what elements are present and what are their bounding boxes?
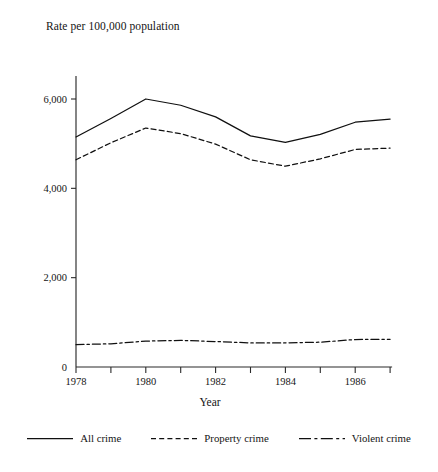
y-tick-label: 2,000 <box>43 272 67 283</box>
y-tick-label: 6,000 <box>43 94 67 105</box>
legend-label: All crime <box>80 432 121 444</box>
chart-legend: All crimeProperty crimeViolent crime <box>0 432 438 444</box>
x-tick-label: 1984 <box>275 376 297 387</box>
axes <box>76 76 392 367</box>
series-line-violent-crime <box>76 339 390 344</box>
legend-item-all-crime: All crime <box>27 432 121 444</box>
y-axis-tick-labels: 02,0004,0006,000 <box>43 94 67 373</box>
legend-swatch-solid-icon <box>27 434 73 443</box>
x-axis-title: Year <box>0 396 438 408</box>
legend-swatch-dashed-icon <box>151 434 197 443</box>
x-axis-title-text: Year <box>199 396 220 408</box>
series-line-all-crime <box>76 99 390 142</box>
x-tick-label: 1978 <box>66 376 87 387</box>
x-tick-label: 1980 <box>135 376 156 387</box>
legend-item-violent-crime: Violent crime <box>299 432 411 444</box>
crime-rate-chart: Rate per 100,000 population 02,0004,0006… <box>0 0 438 472</box>
x-tick-label: 1982 <box>205 376 226 387</box>
legend-item-property-crime: Property crime <box>151 432 268 444</box>
series-line-property-crime <box>76 128 390 166</box>
data-series <box>76 99 390 345</box>
y-tick-label: 0 <box>62 362 67 373</box>
legend-swatch-dash-dot-icon <box>299 434 345 443</box>
legend-label: Property crime <box>204 432 268 444</box>
tick-marks <box>71 99 390 373</box>
legend-label: Violent crime <box>352 432 411 444</box>
x-tick-label: 1986 <box>345 376 366 387</box>
x-axis-tick-labels: 19781980198219841986 <box>66 376 366 387</box>
y-tick-label: 4,000 <box>43 183 67 194</box>
